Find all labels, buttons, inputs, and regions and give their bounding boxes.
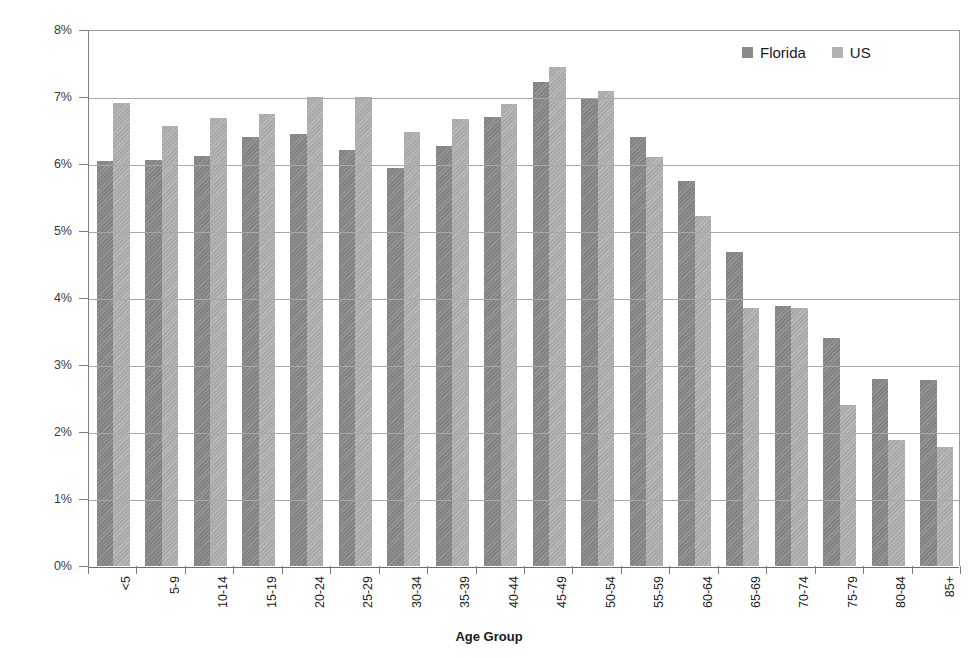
bar-florida-15-19 (242, 137, 259, 566)
bar-us-50-54 (598, 91, 615, 566)
x-tick-label: <5 (119, 576, 133, 626)
bar-us-45-49 (549, 67, 566, 566)
bar-florida-25-29 (339, 150, 356, 566)
bar-florida-85+ (920, 380, 937, 566)
gridline-5 (89, 232, 959, 233)
bar-us-85+ (937, 447, 954, 566)
y-tick-label: 2% (54, 425, 72, 439)
y-tick-mark (79, 97, 88, 98)
y-tick-label: 5% (54, 224, 72, 238)
bar-us-60-64 (695, 216, 712, 566)
x-tick-label: 75-79 (846, 576, 860, 626)
bar-florida-5-9 (145, 160, 162, 566)
x-tick-label: 60-64 (701, 576, 715, 626)
x-axis-title: Age Group (0, 629, 978, 644)
bar-florida-20-24 (290, 134, 307, 566)
x-tick-mark (476, 566, 477, 574)
gridline-7 (89, 98, 959, 99)
x-tick-mark (379, 566, 380, 574)
bar-us-20-24 (307, 97, 324, 566)
x-tick-label: 65-69 (749, 576, 763, 626)
x-tick-label: 80-84 (894, 576, 908, 626)
bar-us-10-14 (210, 118, 227, 566)
x-tick-mark (524, 566, 525, 574)
x-axis-labels: <55-910-1415-1920-2425-2930-3435-3940-44… (88, 576, 960, 628)
y-tick-mark (79, 566, 88, 567)
gridline-6 (89, 165, 959, 166)
gridline-4 (89, 299, 959, 300)
bar-florida-40-44 (484, 117, 501, 566)
chart-legend: FloridaUS (742, 44, 871, 61)
bar-florida-30-34 (387, 168, 404, 566)
x-tick-label: 50-54 (604, 576, 618, 626)
plot-area (88, 30, 960, 566)
gridline-2 (89, 433, 959, 434)
x-tick-label: 70-74 (797, 576, 811, 626)
y-tick-mark (79, 432, 88, 433)
x-tick-mark (718, 566, 719, 574)
y-tick-label: 4% (54, 291, 72, 305)
bar-us-75-79 (840, 405, 857, 566)
x-tick-mark (621, 566, 622, 574)
gridline-3 (89, 366, 959, 367)
bar-us-65-69 (743, 308, 760, 566)
legend-entry-fl[interactable]: Florida (742, 44, 806, 61)
bar-florida-55-59 (630, 137, 647, 566)
bar-us-70-74 (791, 308, 808, 566)
y-tick-label: 6% (54, 157, 72, 171)
y-tick-mark (79, 365, 88, 366)
bar-florida-45-49 (533, 82, 550, 566)
x-tick-mark (669, 566, 670, 574)
y-tick-label: 1% (54, 492, 72, 506)
x-tick-label: 20-24 (313, 576, 327, 626)
gridline-1 (89, 500, 959, 501)
y-tick-label: 0% (54, 559, 72, 573)
x-tick-label: 45-49 (555, 576, 569, 626)
legend-swatch-icon-fl (742, 47, 753, 58)
x-tick-label: 85+ (943, 576, 957, 626)
bar-florida-75-79 (823, 338, 840, 566)
bar-us-80-84 (888, 440, 905, 566)
y-tick-mark (79, 298, 88, 299)
x-tick-label: 35-39 (458, 576, 472, 626)
y-tick-mark (79, 231, 88, 232)
x-tick-label: 15-19 (265, 576, 279, 626)
x-tick-mark (863, 566, 864, 574)
x-tick-mark (136, 566, 137, 574)
x-tick-mark (766, 566, 767, 574)
bar-florida-70-74 (775, 306, 792, 566)
bar-florida-60-64 (678, 181, 695, 566)
x-tick-mark (88, 566, 89, 574)
x-tick-label: 40-44 (507, 576, 521, 626)
y-axis: 0%1%2%3%4%5%6%7%8% (0, 0, 88, 658)
x-tick-mark (815, 566, 816, 574)
x-tick-label: 55-59 (652, 576, 666, 626)
bar-florida-10-14 (194, 156, 211, 566)
x-tick-mark (960, 566, 961, 574)
x-tick-label: 30-34 (410, 576, 424, 626)
bar-us-<5 (113, 103, 130, 566)
legend-entry-us[interactable]: US (832, 44, 871, 61)
y-tick-mark (79, 30, 88, 31)
x-tick-mark (427, 566, 428, 574)
legend-swatch-icon-us (832, 47, 843, 58)
bar-us-15-19 (259, 114, 276, 566)
x-tick-mark (185, 566, 186, 574)
y-tick-label: 8% (54, 23, 72, 37)
x-tick-label: 25-29 (361, 576, 375, 626)
bar-us-40-44 (501, 104, 518, 566)
x-tick-mark (912, 566, 913, 574)
population-by-age-group-chart: Percent of Population 0%1%2%3%4%5%6%7%8%… (0, 0, 978, 658)
x-tick-label: 5-9 (168, 576, 182, 626)
y-tick-mark (79, 499, 88, 500)
bar-us-25-29 (355, 97, 372, 566)
x-tick-label: 10-14 (216, 576, 230, 626)
x-tick-mark (330, 566, 331, 574)
y-tick-label: 7% (54, 90, 72, 104)
x-axis-ticks (88, 566, 960, 575)
legend-label: Florida (760, 44, 806, 61)
x-tick-mark (282, 566, 283, 574)
y-tick-label: 3% (54, 358, 72, 372)
bar-florida-50-54 (581, 98, 598, 566)
x-tick-mark (233, 566, 234, 574)
